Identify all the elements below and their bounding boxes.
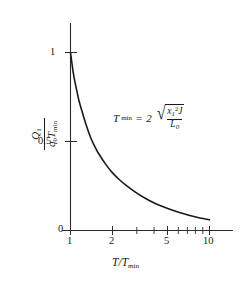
y-label-q: q xyxy=(45,142,57,148)
tmin-formula-annotation: Tmin = 2 √ x12J L0 xyxy=(113,104,184,131)
square-root-icon: √ xyxy=(157,104,166,131)
x-axis-label: T/Tmin xyxy=(0,256,251,270)
x-tick-label-2: 2 xyxy=(109,236,114,247)
figure-container: 1 0.5 0 1 2 5 10 Q1 q0Tmin T/Tmin Tmin =… xyxy=(0,0,251,288)
y-tick-label-1: 1 xyxy=(50,47,55,58)
formula-radical: √ x12J L0 xyxy=(156,104,185,131)
x-tick-label-5: 5 xyxy=(164,236,169,247)
y-label-Q: Q xyxy=(29,132,41,140)
y-label-Q-sub: 1 xyxy=(34,128,42,132)
radical-denominator: L0 xyxy=(167,119,182,131)
y-label-T: T xyxy=(45,132,57,138)
x-tick-label-1: 1 xyxy=(67,236,72,247)
radical-L-sub: 0 xyxy=(176,123,180,131)
y-axis-label-fraction: Q1 q0Tmin xyxy=(30,118,59,150)
y-axis-label-denominator: q0Tmin xyxy=(44,118,59,150)
x-label-T2-sub: min xyxy=(128,262,139,270)
radical-body: x12J L0 xyxy=(165,104,184,131)
y-axis-label-numerator: Q1 xyxy=(30,125,44,142)
data-curve xyxy=(71,53,210,220)
y-tick-label-0: 0 xyxy=(58,224,63,235)
y-label-q-sub: 0 xyxy=(50,138,58,142)
formula-coefficient: 2 xyxy=(146,112,152,124)
x-tick-label-10: 10 xyxy=(203,236,214,247)
y-axis-label: Q1 q0Tmin xyxy=(14,104,74,164)
radical-J: J xyxy=(178,106,182,116)
formula-lhs: T xyxy=(113,112,119,124)
radical-numerator: x12J xyxy=(167,106,182,119)
y-label-T-sub: min xyxy=(50,121,58,132)
formula-equals: = xyxy=(136,112,142,124)
formula-lhs-sub: min xyxy=(121,114,132,122)
